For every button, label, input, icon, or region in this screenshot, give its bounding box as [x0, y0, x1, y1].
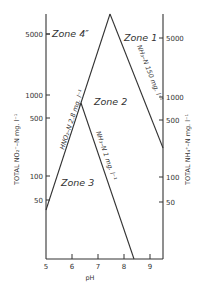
- left-axis-ticks: [46, 34, 50, 200]
- right-tick-50: 50: [166, 199, 175, 207]
- left-tick-500: 500: [30, 115, 43, 123]
- right-axis-ticks: [159, 38, 163, 202]
- x-tick-5: 5: [44, 263, 48, 271]
- right-tick-100: 100: [166, 174, 179, 182]
- right-tick-1000: 1000: [166, 94, 184, 102]
- zone2-label: Zone 2: [93, 96, 127, 107]
- left-tick-100: 100: [30, 173, 43, 181]
- right-tick-5000: 5000: [166, 35, 184, 43]
- right-tick-500: 500: [166, 117, 179, 125]
- x-tick-7: 7: [96, 263, 100, 271]
- x-tick-9: 9: [148, 263, 152, 271]
- x-axis-ticks: [72, 254, 150, 259]
- zone-diagram: 5000 1000 500 100 50 5000 1000 500 100 5…: [0, 0, 207, 286]
- left-tick-50: 50: [34, 197, 43, 205]
- x-tick-6: 6: [70, 263, 75, 271]
- x-axis-label: pH: [85, 274, 94, 282]
- left-axis-label: TOTAL NO₂⁻–N mg. l⁻¹: [13, 113, 21, 186]
- zone1-label: Zone 1: [123, 32, 157, 43]
- left-tick-1000: 1000: [25, 92, 43, 100]
- hno2-line-label: HNO₂–N 2.8 mg. l⁻¹: [58, 88, 85, 150]
- zone4-label: Zone 4″: [51, 28, 89, 39]
- nh3-150-line-label: NH₃–N 150 mg. l⁻¹: [135, 44, 164, 103]
- left-tick-5000: 5000: [25, 31, 43, 39]
- x-tick-8: 8: [122, 263, 126, 271]
- nh3-1-line-label: NH₃–N 1 mg. l⁻¹: [94, 130, 118, 181]
- right-axis-label: TOTAL NH₄⁺–N mg. l⁻¹: [184, 114, 192, 186]
- zone3-label: Zone 3: [60, 177, 94, 188]
